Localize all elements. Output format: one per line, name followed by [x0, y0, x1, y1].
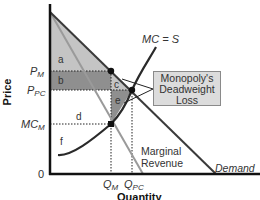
deadweight-loss-annotation: Monopoly's Deadweight Loss: [153, 71, 221, 106]
mc-curve-label: MC = S: [142, 33, 180, 45]
demand-label: Demand: [215, 162, 256, 174]
x-tick-qm: QM: [103, 178, 119, 192]
monopoly-price-point: [108, 68, 114, 74]
y-tick-mcm: MCM: [21, 118, 45, 132]
mr-label-line1: Marginal: [141, 145, 181, 157]
region-label-e: e: [115, 95, 121, 106]
monopoly-diagram: a b c d e f PM PPC MCM 0 QM QPC MC = S D…: [0, 0, 260, 200]
region-label-b: b: [58, 75, 64, 86]
region-label-f: f: [60, 136, 63, 147]
region-label-c: c: [114, 79, 119, 90]
region-label-d: d: [76, 111, 82, 122]
x-tick-qpc: QPC: [124, 178, 144, 192]
monopoly-mc-point: [108, 121, 114, 127]
origin-label: 0: [38, 168, 44, 180]
mr-label-line2: Revenue: [141, 157, 183, 169]
y-tick-pm: PM: [30, 65, 44, 79]
y-tick-ppc: PPC: [27, 84, 46, 98]
region-label-a: a: [58, 54, 64, 65]
competitive-equilibrium-point: [129, 87, 135, 93]
annotation-line3: Loss: [154, 95, 220, 106]
y-axis-label: Price: [1, 79, 13, 106]
x-axis-label: Quantity: [117, 191, 162, 200]
